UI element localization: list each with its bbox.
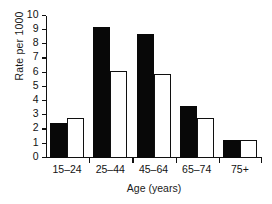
y-axis-tick: 2 (42, 128, 47, 129)
bar (93, 27, 110, 158)
y-axis-tick: 6 (42, 72, 47, 73)
bar (197, 118, 214, 158)
y-axis-title: Rate per 1000 (12, 0, 26, 106)
x-axis-title: Age (years) (46, 182, 262, 195)
x-axis-tick (132, 158, 133, 163)
x-axis-category-label: 65–74 (182, 163, 211, 176)
y-axis-tick: 8 (42, 43, 47, 44)
y-axis-tick: 4 (42, 100, 47, 101)
plot-area: 012345678910 15–2425–4445–6465–7475+ (46, 16, 262, 158)
y-axis-tick-label: 6 (33, 65, 39, 77)
bar-chart-figure: Rate per 1000 012345678910 15–2425–4445–… (0, 0, 272, 204)
y-axis-tick-label: 9 (33, 22, 39, 34)
bar (180, 106, 197, 158)
y-axis-tick: 7 (42, 57, 47, 58)
y-axis-tick-label: 10 (27, 8, 39, 20)
x-axis-tick (176, 158, 177, 163)
y-axis-tick: 9 (42, 29, 47, 30)
y-axis-tick: 3 (42, 114, 47, 115)
y-axis-tick-label: 0 (33, 150, 39, 162)
y-axis-line (46, 16, 47, 158)
bar (50, 123, 67, 158)
x-axis-tick (261, 158, 262, 163)
bar (154, 74, 171, 158)
y-axis-tick-label: 3 (33, 107, 39, 119)
bar (110, 71, 127, 158)
bar (240, 140, 257, 158)
y-axis-tick: 5 (42, 86, 47, 87)
y-axis-tick: 10 (42, 15, 47, 16)
x-axis-tick (219, 158, 220, 163)
y-axis-tick-label: 1 (33, 136, 39, 148)
y-axis-tick: 1 (42, 143, 47, 144)
bar (223, 140, 240, 158)
bar (137, 34, 154, 158)
x-axis-tick (89, 158, 90, 163)
y-axis-tick-label: 4 (33, 93, 39, 105)
x-axis-category-label: 75+ (231, 163, 249, 176)
x-axis-category-label: 25–44 (96, 163, 125, 176)
y-axis-tick-label: 5 (33, 79, 39, 91)
y-axis-tick-label: 8 (33, 36, 39, 48)
x-axis-category-label: 45–64 (139, 163, 168, 176)
y-axis-tick-label: 7 (33, 50, 39, 62)
y-axis-tick: 0 (42, 157, 47, 158)
x-axis-category-label: 15–24 (52, 163, 81, 176)
y-axis-tick-label: 2 (33, 121, 39, 133)
bar (67, 118, 84, 158)
